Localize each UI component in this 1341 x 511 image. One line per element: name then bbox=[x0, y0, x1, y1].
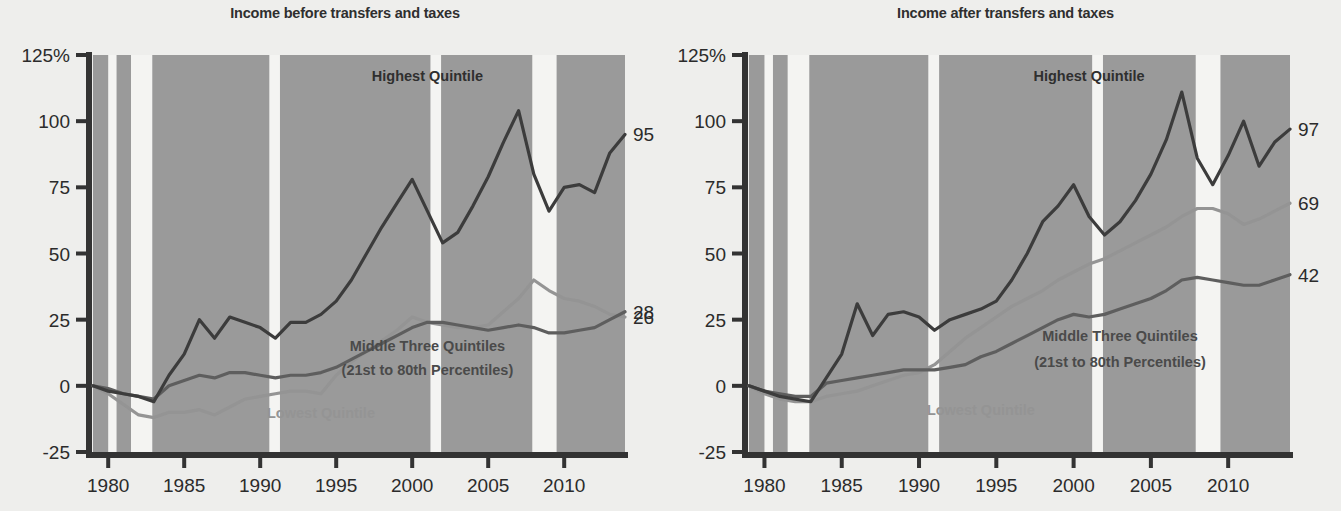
x-tick bbox=[840, 458, 844, 468]
x-tick-label: 2000 bbox=[391, 475, 433, 496]
y-tick-label: 125% bbox=[677, 45, 726, 66]
x-tick-label: 1980 bbox=[87, 475, 129, 496]
series-annotation: Middle Three Quintiles bbox=[1042, 328, 1198, 344]
x-axis-spine bbox=[742, 452, 1293, 458]
x-tick bbox=[1149, 458, 1153, 468]
y-tick-label: -25 bbox=[699, 442, 726, 463]
y-tick-label: 25 bbox=[705, 310, 726, 331]
recession-band bbox=[532, 55, 556, 452]
series-annotation: Lowest Quintile bbox=[267, 405, 375, 421]
x-tick-label: 2005 bbox=[467, 475, 509, 496]
series-annotation: Middle Three Quintiles bbox=[350, 338, 506, 354]
series-annotation: Highest Quintile bbox=[1033, 68, 1144, 84]
y-tick-label: 50 bbox=[705, 244, 726, 265]
y-tick-label: 50 bbox=[49, 244, 70, 265]
x-tick-label: 1990 bbox=[239, 475, 281, 496]
chart-before-transfers: -250255075100125%19801985199019952000200… bbox=[0, 0, 670, 511]
recession-band bbox=[131, 55, 152, 452]
y-tick-label: 0 bbox=[59, 376, 70, 397]
panel-after-transfers: Income after transfers and taxes -250255… bbox=[670, 0, 1341, 511]
y-tick-label: 0 bbox=[715, 376, 726, 397]
x-tick bbox=[106, 458, 110, 468]
y-tick bbox=[76, 318, 86, 322]
x-tick-label: 2010 bbox=[543, 475, 585, 496]
y-axis-spine bbox=[86, 52, 92, 455]
x-tick-label: 1990 bbox=[898, 475, 940, 496]
chart-after-transfers: -250255075100125%19801985199019952000200… bbox=[670, 0, 1341, 511]
y-tick bbox=[732, 53, 742, 57]
x-tick-label: 1995 bbox=[315, 475, 357, 496]
y-tick bbox=[76, 185, 86, 189]
y-tick bbox=[76, 450, 86, 454]
y-tick bbox=[76, 384, 86, 388]
x-tick bbox=[410, 458, 414, 468]
y-tick bbox=[732, 384, 742, 388]
x-tick bbox=[562, 458, 566, 468]
x-tick bbox=[994, 458, 998, 468]
y-tick bbox=[732, 450, 742, 454]
x-tick bbox=[762, 458, 766, 468]
x-tick bbox=[1226, 458, 1230, 468]
x-axis-spine bbox=[86, 452, 628, 458]
y-tick-label: -25 bbox=[43, 442, 70, 463]
x-tick bbox=[182, 458, 186, 468]
y-tick bbox=[732, 318, 742, 322]
end-value-label: 26 bbox=[633, 307, 654, 328]
x-tick-label: 2000 bbox=[1052, 475, 1094, 496]
x-tick-label: 1985 bbox=[163, 475, 205, 496]
x-tick bbox=[258, 458, 262, 468]
panel-before-transfers: Income before transfers and taxes -25025… bbox=[0, 0, 670, 511]
y-tick bbox=[76, 252, 86, 256]
recession-band bbox=[928, 55, 939, 452]
series-annotation: (21st to 80th Percentiles) bbox=[342, 362, 514, 378]
y-tick bbox=[732, 185, 742, 189]
x-tick bbox=[1072, 458, 1076, 468]
x-tick-label: 2010 bbox=[1207, 475, 1249, 496]
x-tick-label: 1985 bbox=[821, 475, 863, 496]
y-axis-spine bbox=[742, 52, 748, 455]
end-value-label: 42 bbox=[1298, 265, 1319, 286]
y-tick bbox=[732, 252, 742, 256]
recession-band bbox=[430, 55, 441, 452]
recession-band bbox=[1092, 55, 1103, 452]
series-annotation: (21st to 80th Percentiles) bbox=[1034, 354, 1206, 370]
x-tick-label: 1980 bbox=[743, 475, 785, 496]
x-tick bbox=[334, 458, 338, 468]
y-tick-label: 100 bbox=[694, 111, 726, 132]
x-tick bbox=[486, 458, 490, 468]
recession-band bbox=[788, 55, 810, 452]
recession-band bbox=[1196, 55, 1221, 452]
y-tick-label: 75 bbox=[705, 177, 726, 198]
y-tick-label: 25 bbox=[49, 310, 70, 331]
series-annotation: Lowest Quintile bbox=[927, 402, 1035, 418]
end-value-label: 95 bbox=[633, 124, 654, 145]
y-tick-label: 75 bbox=[49, 177, 70, 198]
y-tick bbox=[76, 119, 86, 123]
end-value-label: 69 bbox=[1298, 193, 1319, 214]
x-tick-label: 1995 bbox=[975, 475, 1017, 496]
y-tick bbox=[732, 119, 742, 123]
x-tick bbox=[917, 458, 921, 468]
y-tick bbox=[76, 53, 86, 57]
x-tick-label: 2005 bbox=[1130, 475, 1172, 496]
y-tick-label: 125% bbox=[21, 45, 70, 66]
series-annotation: Highest Quintile bbox=[372, 68, 483, 84]
end-value-label: 97 bbox=[1298, 119, 1319, 140]
y-tick-label: 100 bbox=[38, 111, 70, 132]
chart-panels: Income before transfers and taxes -25025… bbox=[0, 0, 1341, 511]
